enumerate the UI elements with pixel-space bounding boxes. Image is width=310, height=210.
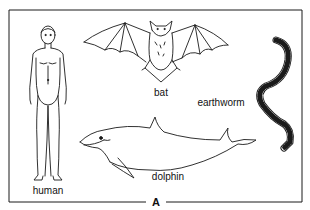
panel-label: A [152,196,160,208]
label-bat: bat [154,87,168,98]
animal-figure: human bat earthworm [0,0,310,210]
label-dolphin: dolphin [152,171,184,182]
label-earthworm: earthworm [197,97,244,108]
label-human: human [33,185,64,196]
bat-illustration [84,21,228,82]
dolphin-illustration [80,117,256,178]
human-illustration [30,26,67,180]
earthworm-illustration [260,40,291,148]
